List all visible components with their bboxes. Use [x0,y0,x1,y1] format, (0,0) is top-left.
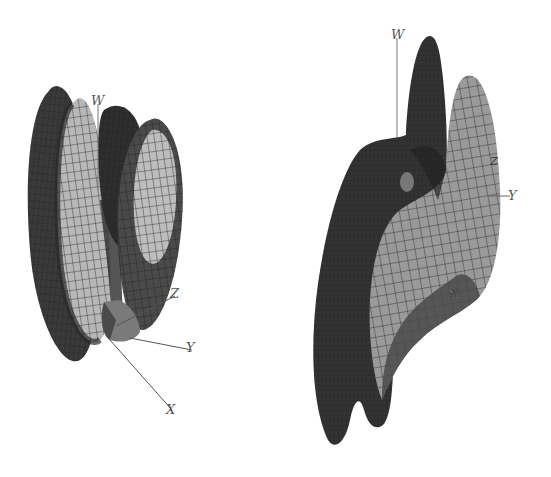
z-axis-label: Z [170,287,179,300]
right-surface-figure: W Z Y X [270,0,551,477]
y-axis-label: Y [186,341,195,354]
right-surface-plot [270,0,551,477]
y-axis-label: Y [508,189,517,202]
z-axis-label: Z [490,156,498,167]
x-axis-line [110,340,172,410]
x-axis-label: X [166,403,175,416]
left-surface-figure: W Z Y X [0,0,250,477]
x-axis-label: X [450,288,458,299]
w-axis-label: W [91,94,104,107]
left-surface-plot [0,0,250,477]
y-axis-line [130,338,192,350]
origin-cone [400,172,414,192]
w-axis-label: W [391,28,404,41]
